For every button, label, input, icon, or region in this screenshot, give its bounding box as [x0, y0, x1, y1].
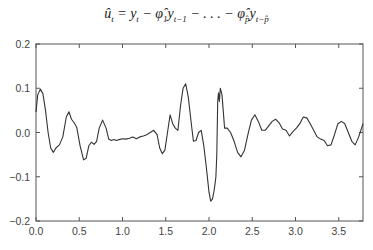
residual-series-line: [36, 84, 363, 201]
x-tick-label: 0.5: [72, 225, 87, 237]
plot-frame: [36, 44, 363, 221]
x-tick-label: 1.5: [158, 225, 173, 237]
x-tick-label: 0.0: [29, 225, 44, 237]
x-axis-ticks: 0.00.51.01.52.02.53.03.5: [29, 44, 347, 237]
y-tick-label: 0.0: [15, 127, 30, 139]
y-axis-ticks: 0.20.10.0−0.1−0.2: [9, 38, 363, 227]
y-tick-label: 0.1: [15, 82, 30, 94]
y-tick-label: −0.1: [9, 171, 30, 183]
y-tick-label: −0.2: [9, 215, 30, 227]
x-tick-label: 2.0: [202, 225, 217, 237]
x-tick-label: 3.0: [288, 225, 303, 237]
y-tick-label: 0.2: [15, 38, 30, 50]
x-tick-label: 3.5: [331, 225, 346, 237]
x-tick-label: 2.5: [245, 225, 260, 237]
line-chart: 0.00.51.01.52.02.53.03.5 0.20.10.0−0.1−0…: [0, 0, 373, 250]
x-tick-label: 1.0: [115, 225, 130, 237]
